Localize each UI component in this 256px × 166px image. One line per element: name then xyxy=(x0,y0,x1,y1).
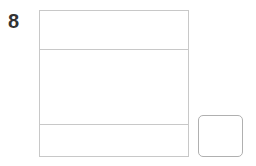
work-area-row-1 xyxy=(40,11,188,50)
question-number: 8 xyxy=(8,11,19,31)
work-area-row-2 xyxy=(40,49,188,125)
work-area-box xyxy=(39,10,189,157)
answer-box[interactable] xyxy=(198,115,243,157)
